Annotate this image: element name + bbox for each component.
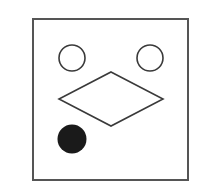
right-hollow-circle [137, 45, 163, 71]
filled-black-circle [58, 125, 87, 154]
left-hollow-circle [59, 45, 85, 71]
square-frame [33, 19, 188, 180]
diamond-shape [59, 72, 163, 126]
diagram-canvas [0, 0, 202, 196]
